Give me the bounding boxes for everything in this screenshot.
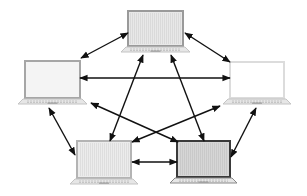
laptop-icon-right — [223, 62, 291, 104]
arrow-right-to-bottom-left — [132, 106, 220, 142]
arrow-top-to-bottom-left — [110, 55, 143, 141]
arrow-top-to-bottom-right — [171, 55, 204, 141]
laptop-icon-bottom-right — [170, 141, 237, 183]
laptop-icon-left — [18, 61, 87, 104]
laptop-icon-top — [121, 11, 190, 52]
arrow-top-to-left — [81, 33, 128, 58]
network-diagram — [0, 0, 307, 196]
arrow-left-to-bottom-right — [91, 103, 178, 142]
laptop-nodes — [18, 11, 291, 184]
arrow-top-to-right — [185, 33, 230, 62]
arrow-left-to-bottom-left — [49, 108, 75, 155]
laptop-icon-bottom-left — [70, 141, 138, 184]
arrow-right-to-bottom-right — [231, 108, 256, 157]
